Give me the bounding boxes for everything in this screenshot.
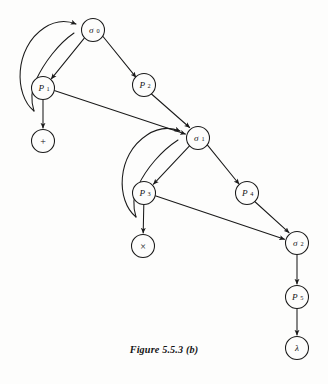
node-sigma1-label: σ [194,133,199,143]
node-P2[interactable]: P 2 [133,74,156,97]
node-P3[interactable]: P 3 [133,182,156,205]
node-P4[interactable]: P 4 [236,182,259,205]
edge-sigma0-P2 [103,37,136,78]
edge-P3-times [143,205,144,234]
node-plus[interactable]: + [32,130,55,153]
node-sigma2-subscript: 2 [300,240,303,247]
edge-P3-sigma1-feedback-arc [122,128,180,217]
node-P1-subscript: 1 [46,85,49,92]
edge-sigma1-P4 [207,145,239,184]
node-P2-subscript: 2 [147,82,150,89]
figure-caption: Figure 5.5.3 (b) [0,344,328,355]
node-P3-subscript: 3 [147,190,150,197]
node-sigma0-subscript: 0 [96,27,99,34]
node-times[interactable]: × [132,235,155,258]
node-P1-label: P [37,83,44,93]
node-P2-label: P [138,80,145,90]
node-P5[interactable]: P 5 [286,286,309,309]
node-sigma2-label: σ [293,238,298,248]
figure-container: σ 0 P 1 P 2 + σ 1 P 3 P [0,0,328,384]
node-P4-label: P [241,188,248,198]
edge-sigma0-P1 [51,38,84,79]
node-sigma1-subscript: 1 [201,135,204,142]
edge-P2-sigma1 [152,94,190,128]
edge-sigma1-P3 [154,146,190,184]
node-P1[interactable]: P 1 [32,77,55,100]
node-P5-subscript: 5 [300,294,303,301]
edge-P3-sigma2 [155,196,284,240]
graph-diagram: σ 0 P 1 P 2 + σ 1 P 3 P [0,0,328,384]
node-times-label: × [140,241,146,252]
node-P3-label: P [138,188,145,198]
node-sigma0[interactable]: σ 0 [82,19,105,42]
node-sigma2[interactable]: σ 2 [286,232,309,255]
node-sigma1[interactable]: σ 1 [187,127,210,150]
edge-P1-sigma1 [54,91,185,134]
node-P5-label: P [291,292,298,302]
node-plus-label: + [40,136,46,147]
node-sigma0-label: σ [89,25,94,35]
edge-P4-sigma2 [255,202,289,233]
